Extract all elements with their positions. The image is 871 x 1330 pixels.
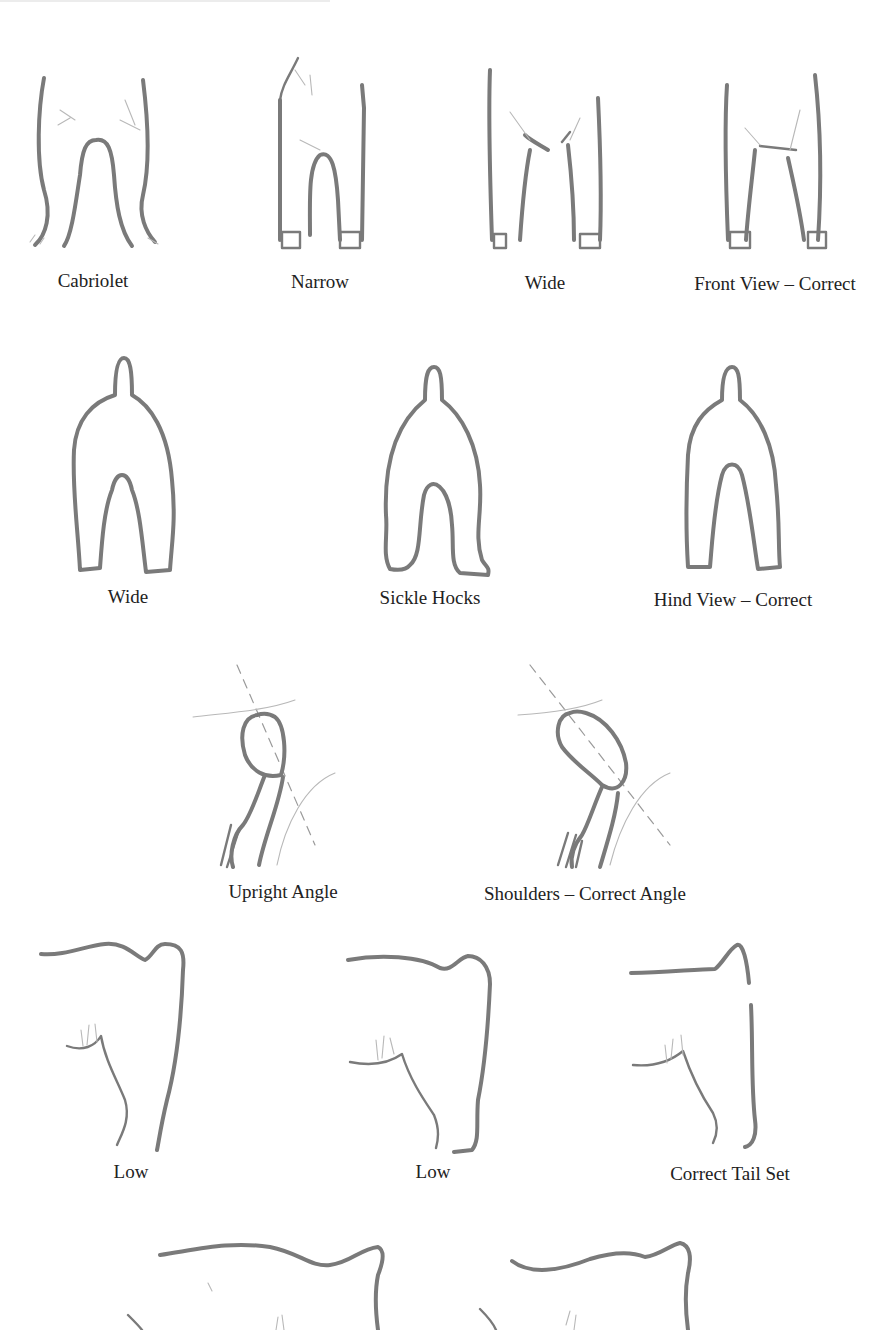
bottom-left-partial-drawing [120,1235,410,1330]
caption-front-view-correct: Front View – Correct [694,273,856,295]
figure-front-correct [700,0,860,300]
figure-front-narrow [240,0,400,300]
caption-low-2: Low [416,1161,451,1183]
front-legs-narrow-drawing [240,0,400,300]
hind-legs-sickle-hocks-drawing [370,355,510,585]
caption-wide-front: Wide [525,272,565,294]
figure-bottom-left-partial [120,1235,410,1330]
figure-front-wide [470,0,630,300]
figure-bottom-right-partial [460,1235,720,1330]
front-legs-wide-drawing [470,0,630,300]
caption-narrow: Narrow [291,271,349,293]
figure-shoulder-upright [185,655,355,875]
caption-hind-view-correct: Hind View – Correct [654,589,812,611]
tail-set-correct-drawing [625,935,795,1165]
caption-upright-angle: Upright Angle [228,881,337,903]
figure-tail-low-2 [340,940,510,1170]
caption-low-1: Low [114,1161,149,1183]
shoulder-correct-angle-drawing [510,655,690,875]
bottom-right-partial-drawing [460,1235,720,1330]
figure-tail-low-1 [35,930,205,1160]
hind-legs-wide-drawing [60,350,200,580]
figure-hind-sickle [370,355,510,585]
figure-shoulder-correct [510,655,690,875]
front-legs-correct-drawing [700,0,860,300]
hind-legs-correct-drawing [670,355,800,585]
tail-set-low-1-drawing [35,930,205,1160]
front-legs-cabriolet-drawing [0,0,200,300]
tail-set-low-2-drawing [340,940,510,1170]
figure-front-cabriolet [0,0,200,300]
caption-correct-tail-set: Correct Tail Set [670,1163,790,1185]
shoulder-upright-angle-drawing [185,655,355,875]
caption-shoulders-correct-angle: Shoulders – Correct Angle [484,883,686,905]
caption-wide-hind: Wide [108,586,148,608]
caption-cabriolet: Cabriolet [58,270,129,292]
figure-hind-wide [60,350,200,580]
figure-tail-correct [625,935,795,1165]
figure-hind-correct [670,355,800,585]
caption-sickle-hocks: Sickle Hocks [380,587,481,609]
